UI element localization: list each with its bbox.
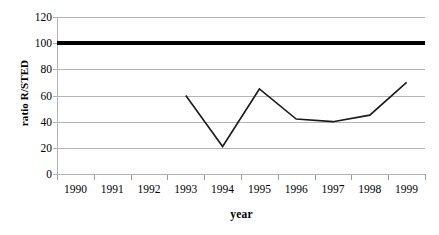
y-tick-label-40: 40 (22, 116, 52, 127)
x-tick-mark-1 (94, 175, 95, 180)
x-tick-mark-0 (57, 175, 58, 180)
y-tick-label-80: 80 (22, 64, 52, 75)
x-tick-label-1996: 1996 (285, 182, 308, 196)
x-axis-tick-labels: 1990199119921993199419951996199719981999 (57, 182, 426, 198)
plot-area (57, 17, 425, 174)
y-tick-label-0: 0 (22, 169, 52, 180)
x-tick-mark-10 (425, 175, 426, 180)
x-tick-mark-7 (315, 175, 316, 180)
x-tick-mark-9 (388, 175, 389, 180)
y-tick-label-60: 60 (22, 90, 52, 101)
x-tick-label-1995: 1995 (248, 182, 271, 196)
x-tick-mark-2 (131, 175, 132, 180)
y-tick-label-20: 20 (22, 142, 52, 153)
x-tick-label-1993: 1993 (174, 182, 197, 196)
x-tick-mark-6 (278, 175, 279, 180)
x-tick-mark-8 (351, 175, 352, 180)
x-tick-label-1998: 1998 (358, 182, 381, 196)
x-tick-label-1994: 1994 (211, 182, 234, 196)
x-tick-mark-5 (241, 175, 242, 180)
x-tick-label-1992: 1992 (138, 182, 161, 196)
x-tick-label-1997: 1997 (322, 182, 345, 196)
x-tick-mark-3 (167, 175, 168, 180)
x-tick-label-1999: 1999 (395, 182, 418, 196)
y-tick-label-100: 100 (22, 38, 52, 49)
y-axis-tick-labels: 020406080100120 (22, 0, 52, 235)
x-tick-mark-4 (204, 175, 205, 180)
x-tick-label-1991: 1991 (101, 182, 124, 196)
x-tick-label-1990: 1990 (64, 182, 87, 196)
y-tick-label-120: 120 (22, 12, 52, 23)
x-axis-title: year (57, 208, 426, 220)
data-series-line (57, 17, 425, 174)
line-chart: ratio R/STED 020406080100120 19901991199… (0, 0, 439, 235)
